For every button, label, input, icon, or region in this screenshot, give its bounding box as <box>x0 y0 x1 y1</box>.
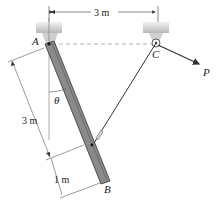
cable-attachment-point <box>91 144 94 147</box>
bar-upper-length-label: 3 m <box>22 115 38 126</box>
cable <box>94 43 156 143</box>
label-p: P <box>202 66 210 78</box>
top-dimension: 3 m <box>49 6 158 22</box>
label-b: B <box>104 183 111 195</box>
pin-a <box>47 42 50 45</box>
top-span-label: 3 m <box>94 7 110 18</box>
diagram-canvas: 3 m A C P B θ 3 m <box>0 0 221 204</box>
label-a: A <box>31 35 39 47</box>
label-theta: θ <box>54 94 60 106</box>
force-p-arrow <box>158 45 199 64</box>
bar-lower-length-label: 1 m <box>54 174 70 185</box>
bar-ab <box>45 41 110 184</box>
label-c: C <box>152 48 160 60</box>
